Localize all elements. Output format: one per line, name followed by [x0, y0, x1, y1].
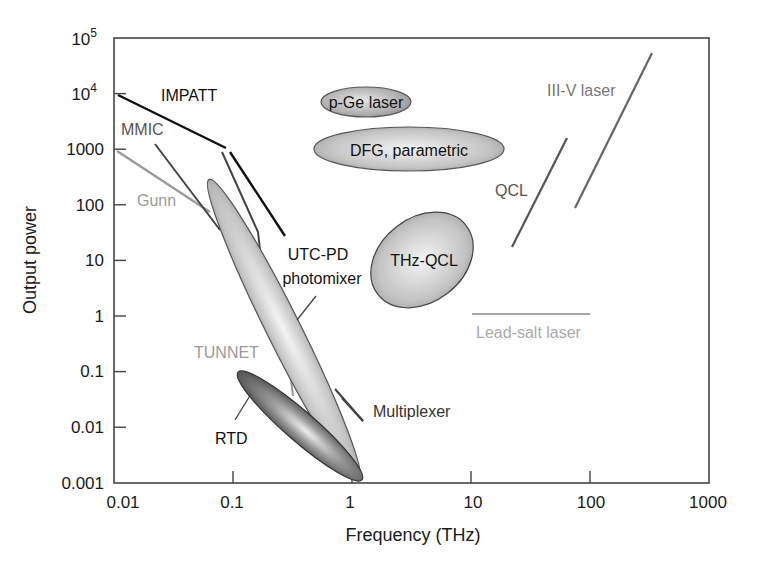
x-axis-title: Frequency (THz)	[345, 525, 480, 545]
series-iii-v-laser	[575, 53, 652, 208]
x-tick-100: 100	[577, 493, 605, 512]
y-tick-1000: 1000	[66, 140, 104, 159]
chart: 105 104 1000 100 10 1 0.1 0.01 0.001 0.0…	[0, 0, 760, 570]
label-p-ge-laser: p-Ge laser	[329, 94, 404, 111]
y-tick-0.1: 0.1	[80, 362, 104, 381]
x-tick-0.01: 0.01	[106, 493, 139, 512]
leader-utc-pd	[297, 296, 316, 320]
label-multiplexer: Multiplexer	[373, 403, 451, 420]
y-tick-0.01: 0.01	[71, 418, 104, 437]
y-tick-1e4: 104	[71, 81, 97, 104]
label-utc-pd: UTC-PD	[288, 246, 348, 263]
label-rtd: RTD	[215, 430, 248, 447]
x-tick-1: 1	[345, 493, 354, 512]
x-tick-10: 10	[464, 493, 483, 512]
x-tick-0.1: 0.1	[220, 493, 244, 512]
y-tick-10: 10	[85, 251, 104, 270]
y-tick-1e5: 105	[71, 26, 97, 49]
label-thz-qcl: THz-QCL	[390, 252, 458, 269]
label-mmic: MMIC	[121, 121, 164, 138]
label-dfg-parametric: DFG, parametric	[350, 142, 468, 159]
x-tick-1000: 1000	[689, 493, 727, 512]
y-axis-title: Output power	[20, 206, 40, 314]
label-iii-v-laser: III-V laser	[547, 82, 616, 99]
series-impatt	[118, 95, 285, 236]
y-tick-100: 100	[76, 196, 104, 215]
label-lead-salt-laser: Lead-salt laser	[476, 324, 582, 341]
label-qcl: QCL	[495, 182, 528, 199]
label-gunn: Gunn	[137, 192, 176, 209]
label-tunnet: TUNNET	[194, 344, 259, 361]
series-multiplexer-tail	[342, 398, 363, 421]
y-tick-1: 1	[95, 307, 104, 326]
y-tick-0.001: 0.001	[61, 474, 104, 493]
label-photomixer: photomixer	[282, 270, 362, 287]
x-ticks	[233, 471, 590, 483]
y-ticks	[114, 94, 126, 428]
label-impatt: IMPATT	[161, 87, 218, 104]
leader-rtd	[235, 394, 251, 420]
